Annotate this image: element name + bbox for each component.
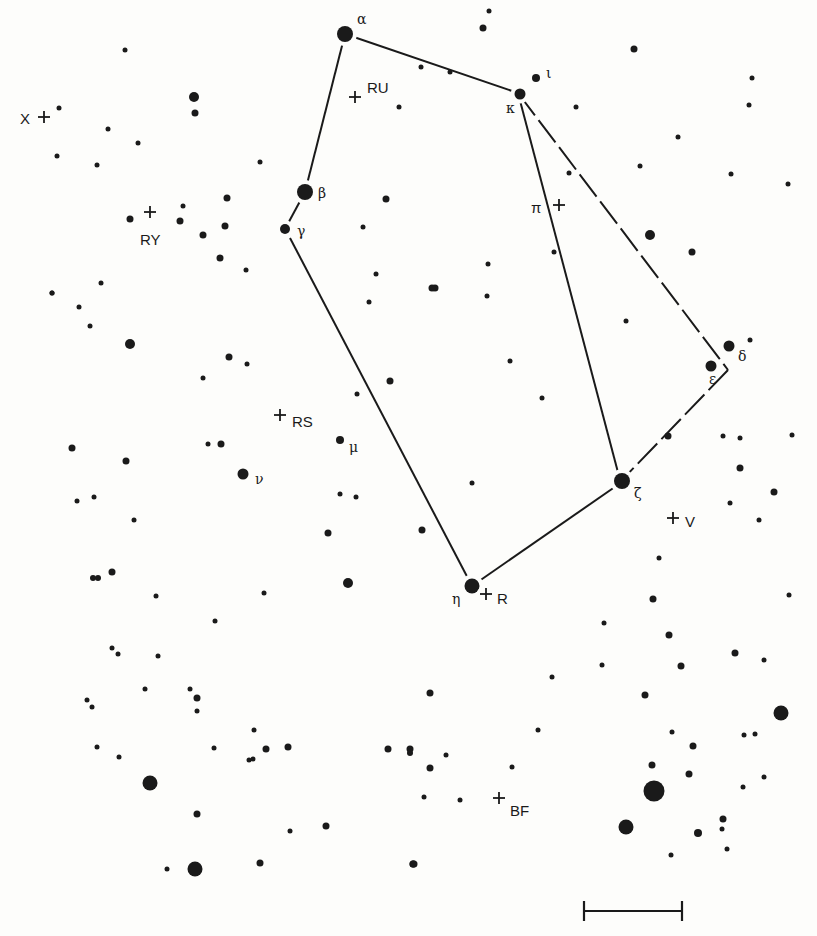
star-dot [480,25,487,32]
named-star-dot [465,579,480,594]
star-dot [753,732,758,737]
named-star-dot [532,74,540,82]
variable-star-x: X [20,108,53,127]
star-dot [343,578,353,588]
star-dot [689,249,696,256]
star-dot [90,705,95,710]
star-dot [385,746,392,753]
star-dot [670,730,675,735]
variable-star-r: R [477,585,508,607]
star-dot [737,465,744,472]
star-dot [374,272,379,277]
star-dot [458,798,463,803]
named-star-dot [238,469,249,480]
star-dot [485,294,490,299]
star-dot [217,255,224,262]
star-dot [136,141,141,146]
star-dot [552,250,557,255]
star-dot [470,481,475,486]
star-dot [177,218,184,225]
variable-star-bf: BF [490,789,529,819]
greek-label: μ [349,439,358,455]
variable-star-v: V [664,509,695,530]
star-dot [669,853,674,858]
star-dot [600,663,605,668]
star-dot [422,795,427,800]
star-dot [631,46,638,53]
star-dot [92,495,97,500]
star-dot [729,172,734,177]
star-dot [77,305,82,310]
star-dot [397,105,402,110]
star-dot [251,757,256,762]
star-dot [602,621,607,626]
star-dot [99,281,104,286]
star-dot [109,569,116,576]
greek-label: ν [255,471,264,487]
variable-label: V [685,513,695,530]
star-dot [325,530,332,537]
star-dot [188,687,193,692]
star-dot [720,827,725,832]
star-dot [387,378,394,385]
named-star-dot [724,341,735,352]
star-dot [222,223,229,230]
star-dot [536,728,541,733]
star-dot [95,745,100,750]
star-dot [407,750,413,756]
star-dot [510,765,515,770]
variable-star-ry: RY [140,203,161,248]
star-dot [224,195,231,202]
star-dot [748,338,753,343]
star-dot [355,392,360,397]
greek-label: γ [297,223,305,239]
star-dot [787,593,792,598]
star-dot [123,458,130,465]
star-dot [550,675,555,680]
star-dot [57,106,62,111]
constellation-lines [285,34,728,586]
star-dot [747,103,752,108]
constellation-line [518,93,728,370]
variable-label: X [20,110,30,127]
star-dot [245,362,250,367]
variable-label: RS [292,413,313,430]
star-dot [125,339,135,349]
star-dot [194,811,201,818]
star-dot [790,433,795,438]
star-dot [257,860,264,867]
star-dot [487,9,492,14]
greek-label: ζ [634,485,642,501]
star-dot [143,687,148,692]
star-dot [694,829,702,837]
star-dot [650,596,657,603]
star-dot [165,867,170,872]
star-dot [263,746,270,753]
star-dot [338,492,343,497]
star-dot [738,436,743,441]
star-dot [50,291,55,296]
star-dot [619,820,634,835]
named-star-dot [297,184,313,200]
star-dot [367,300,372,305]
star-dot [55,154,60,159]
star-dot [181,204,186,209]
star-dot [244,268,249,273]
named-star-dot [614,473,630,489]
field-stars [50,9,795,877]
star-dot [574,105,579,110]
star-dot [486,262,491,267]
star-dot [786,182,791,187]
constellation-line [290,238,472,586]
star-dot [642,692,649,699]
star-dot [132,518,137,523]
star-dot [288,829,293,834]
star-dot [741,785,746,790]
greek-label: ε [709,371,716,387]
star-dot [218,441,225,448]
star-dot [732,650,739,657]
star-dot [194,695,201,702]
greek-label: η [452,591,460,607]
star-dot [85,698,90,703]
star-dot [354,495,359,500]
